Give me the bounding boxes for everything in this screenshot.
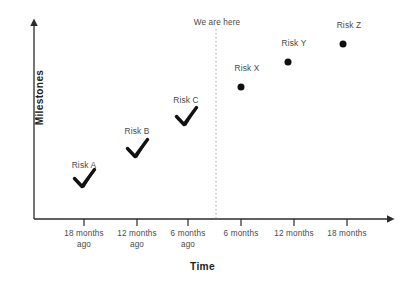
x-tick-label-2-line2: ago	[152, 240, 224, 251]
risk-y-label: Risk Y	[272, 38, 316, 49]
risk-c-label: Risk C	[164, 95, 208, 106]
x-axis-ticks	[84, 219, 347, 226]
dot-risk-x	[238, 84, 245, 91]
checkmark-risk-c	[177, 108, 198, 127]
checkmark-risk-b	[128, 140, 149, 159]
we-are-here-label: We are here	[181, 18, 253, 29]
y-axis-title: Milestones	[34, 63, 45, 133]
dot-risk-z	[340, 41, 347, 48]
x-tick-label-5: 18 months	[311, 229, 383, 240]
checkmark-risk-a	[75, 170, 96, 189]
risk-z-label: Risk Z	[327, 20, 371, 31]
x-axis-title: Time	[0, 261, 405, 272]
risk-x-label: Risk X	[225, 63, 269, 74]
risk-b-label: Risk B	[115, 126, 159, 137]
dot-risk-y	[285, 59, 292, 66]
risk-a-label: Risk A	[62, 160, 106, 171]
risk-timeline-chart: We are here Risk A Risk B Risk C Risk X …	[0, 0, 405, 284]
x-tick-label-5-line1: 18 months	[311, 229, 383, 240]
